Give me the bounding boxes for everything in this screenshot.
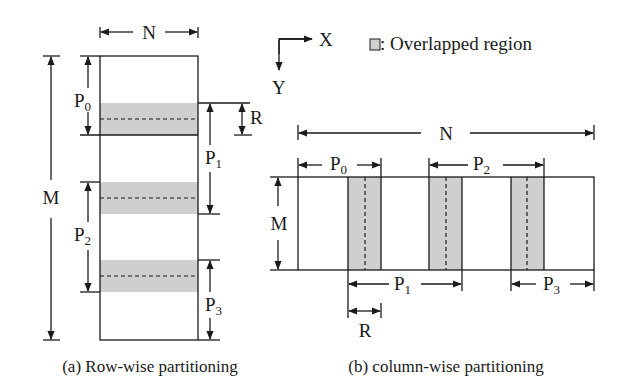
overlap-swatch-icon: [370, 39, 380, 50]
overlap-legend-label: : Overlapped region: [380, 33, 532, 54]
column-overlap-r-label: R: [359, 320, 372, 341]
column-height-label: M: [271, 213, 288, 234]
column-partition-p2: P2: [473, 153, 490, 177]
column-wise-figure: N M P0 P2 P1 P3 R (b) col: [270, 123, 594, 376]
row-height-label: M: [43, 187, 60, 208]
row-partition-p3: P3: [205, 294, 222, 318]
column-partition-p3: P3: [543, 273, 560, 297]
column-wise-caption: (b) column-wise partitioning: [348, 357, 544, 376]
column-partition-p0: P0: [330, 153, 347, 177]
row-partition-p2: P2: [74, 224, 91, 248]
row-wise-caption: (a) Row-wise partitioning: [62, 357, 238, 376]
column-partition-p1: P1: [394, 273, 411, 297]
axis-x-label: X: [319, 29, 333, 50]
row-width-label: N: [142, 22, 156, 43]
column-width-label: N: [439, 123, 453, 144]
row-partition-p0: P0: [74, 90, 91, 114]
partitioning-diagram: N M P0 P1 R P2 P3 (a) Row-wise partition…: [0, 0, 623, 384]
row-overlap-r-label: R: [250, 107, 263, 128]
row-partition-p1: P1: [205, 147, 222, 171]
axis-y-label: Y: [272, 77, 286, 98]
row-wise-figure: N M P0 P1 R P2 P3 (a) Row-wise partition…: [43, 22, 263, 376]
legend: X Y : Overlapped region: [272, 29, 532, 98]
